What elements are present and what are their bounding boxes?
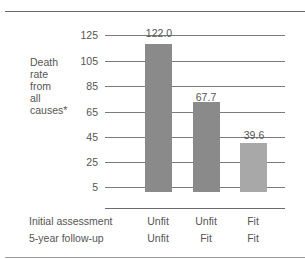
y-tick: 5	[60, 181, 98, 193]
bar-unfit-fit	[193, 102, 220, 192]
gridline-125	[105, 35, 285, 36]
category-cell: Fit	[233, 215, 273, 227]
top-rule	[5, 11, 305, 12]
y-axis-label-line: rate	[30, 68, 90, 80]
bar-unfit-unfit	[145, 44, 172, 192]
bottom-rule	[5, 257, 305, 258]
category-cell: Unfit	[186, 215, 226, 227]
y-tick: 125	[60, 29, 98, 41]
category-cell: Fit	[233, 232, 273, 244]
row-label-5-year-follow-up: 5-year follow-up	[29, 232, 104, 244]
category-cell: Fit	[186, 232, 226, 244]
category-rule	[105, 208, 285, 209]
bar-fit-fit	[240, 143, 267, 192]
category-cell: Unfit	[138, 232, 178, 244]
gridline-85	[105, 86, 285, 87]
bar-value-label: 39.6	[234, 129, 274, 141]
y-tick: 25	[60, 156, 98, 168]
category-cell: Unfit	[138, 215, 178, 227]
y-axis-label-line: Death	[30, 56, 90, 68]
bar-value-label: 67.7	[186, 91, 226, 103]
bar-value-label: 122.0	[139, 27, 179, 39]
gridline-105	[105, 61, 285, 62]
y-axis-label: Death rate from all causes*	[30, 56, 90, 116]
y-tick: 45	[60, 131, 98, 143]
row-label-initial-assessment: Initial assessment	[29, 215, 112, 227]
y-axis-label-line: causes*	[30, 104, 90, 116]
y-axis-label-line: from	[30, 80, 90, 92]
y-axis-label-line: all	[30, 92, 90, 104]
